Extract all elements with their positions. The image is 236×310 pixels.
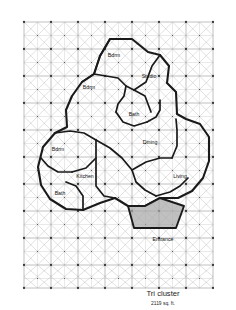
room-label-entrance: Entrance [153,236,174,242]
grid-node [104,264,106,266]
grid-node [77,237,79,239]
grid-node-minor [118,278,119,279]
grid-node-minor [37,89,38,90]
floor-plan-drawing: BdrmStudioBdrmBathDiningBdrmKitchenLivin… [0,0,236,310]
grid-node-minor [145,251,146,252]
grid-node-minor [37,224,38,225]
grid-node-minor [37,143,38,144]
grid-node [158,48,160,50]
grid-node-minor [64,224,65,225]
grid-node [50,102,52,104]
grid-node-minor [64,170,65,171]
grid-node [104,287,106,289]
room-label-bath-center: Bath [129,111,140,117]
grid-node [131,237,133,239]
grid-node-minor [199,89,200,90]
grid-node-minor [37,251,38,252]
grid-node-minor [118,62,119,63]
grid-node [50,183,52,185]
grid-node [212,264,214,266]
grid-node-minor [199,170,200,171]
grid-node [23,129,25,131]
grid-node [185,75,187,77]
grid-node [77,264,79,266]
grid-node [131,287,133,289]
grid-node [212,156,214,158]
grid-node [104,129,106,131]
grid-node-minor [145,197,146,198]
grid-node [158,21,160,23]
grid-node [158,264,160,266]
grid-node [212,21,214,23]
grid-node-minor [118,89,119,90]
grid-node [185,129,187,131]
grid-node-minor [91,62,92,63]
grid-node-minor [172,170,173,171]
grid-node-minor [145,278,146,279]
grid-node-minor [64,89,65,90]
grid-node [212,75,214,77]
grid-node [212,287,214,289]
grid-node [77,287,79,289]
grid-node [77,183,79,185]
grid-node [185,287,187,289]
room-label-living: Living [173,173,187,179]
grid-node [131,264,133,266]
grid-node [185,156,187,158]
grid-node-minor [145,35,146,36]
grid-node [104,156,106,158]
grid-node [212,210,214,212]
grid-node-minor [118,143,119,144]
grid-node [23,210,25,212]
grid-node-minor [118,224,119,225]
room-label-bath-left: Bath [55,190,66,196]
grid-node-minor [172,116,173,117]
grid-node-minor [91,35,92,36]
grid-node [77,21,79,23]
grid-node [185,21,187,23]
grid-node [131,156,133,158]
grid-node-minor [37,62,38,63]
grid-node [131,21,133,23]
grid-node [158,183,160,185]
grid-node [50,287,52,289]
grid-node [185,237,187,239]
grid-node [50,48,52,50]
grid-node-minor [64,197,65,198]
grid-node [77,75,79,77]
grid-node [77,156,79,158]
grid-node-minor [172,143,173,144]
grid-node [131,75,133,77]
room-label-bdrm-top: Bdrm [108,52,120,58]
room-label-studio: Studio [142,73,157,79]
grid-node-minor [172,62,173,63]
grid-node-minor [37,197,38,198]
grid-node-minor [199,143,200,144]
grid-node-minor [37,116,38,117]
room-label-kitchen: Kitchen [76,173,93,179]
grid-node [212,237,214,239]
grid-node [23,102,25,104]
figure-title: Tri cluster [146,289,180,298]
grid-node [23,21,25,23]
room-label-bdrm-left: Bdrm [52,146,64,152]
grid-node [50,210,52,212]
grid-node-minor [37,278,38,279]
grid-node [104,102,106,104]
grid-node-minor [64,35,65,36]
grid-node [104,210,106,212]
grid-node-minor [91,278,92,279]
grid-node [158,75,160,77]
grid-node-minor [64,62,65,63]
grid-node [104,21,106,23]
room-label-bdrm-upper-left: Bdrm [83,84,95,90]
grid-node [50,129,52,131]
figure-area: 2119 sq. ft. [151,301,175,306]
grid-node [185,183,187,185]
grid-node [131,48,133,50]
grid-node-minor [118,35,119,36]
grid-node [23,156,25,158]
grid-node [131,102,133,104]
grid-node-minor [64,251,65,252]
grid-node-minor [91,170,92,171]
